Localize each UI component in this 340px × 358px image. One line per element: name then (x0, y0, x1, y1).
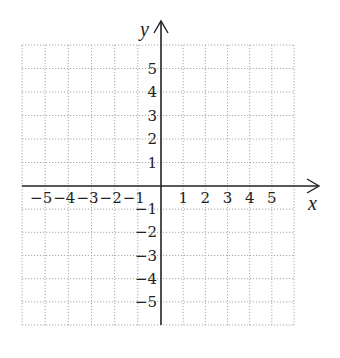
x-tick-label: −3 (76, 189, 98, 207)
x-axis-label: x (307, 192, 317, 214)
y-tick-label: −4 (135, 270, 157, 288)
x-tick-label: −5 (30, 189, 52, 207)
y-tick-label: 3 (147, 107, 157, 125)
y-tick-label: 1 (147, 154, 157, 172)
x-tick-label: 1 (178, 189, 188, 207)
grid-lines (22, 45, 294, 325)
coordinate-plane: −5−4−3−2−112345 54321−1−2−3−4−5 x y (0, 0, 340, 358)
axes (22, 21, 319, 325)
x-tick-label: −2 (100, 189, 122, 207)
y-tick-label: −2 (135, 223, 157, 241)
y-axis-label: y (138, 18, 149, 41)
y-tick-label: 2 (147, 130, 157, 148)
y-tick-label: 5 (147, 60, 157, 78)
x-tick-label: 5 (267, 189, 277, 207)
y-tick-labels: 54321−1−2−3−4−5 (135, 60, 157, 311)
x-tick-label: 2 (201, 189, 211, 207)
y-tick-label: −1 (135, 200, 157, 218)
y-tick-label: −3 (135, 247, 157, 265)
x-tick-label: 3 (223, 189, 233, 207)
x-tick-label: 4 (245, 189, 255, 207)
x-tick-label: −4 (53, 189, 75, 207)
y-tick-label: 4 (147, 83, 157, 101)
y-tick-label: −5 (135, 293, 157, 311)
